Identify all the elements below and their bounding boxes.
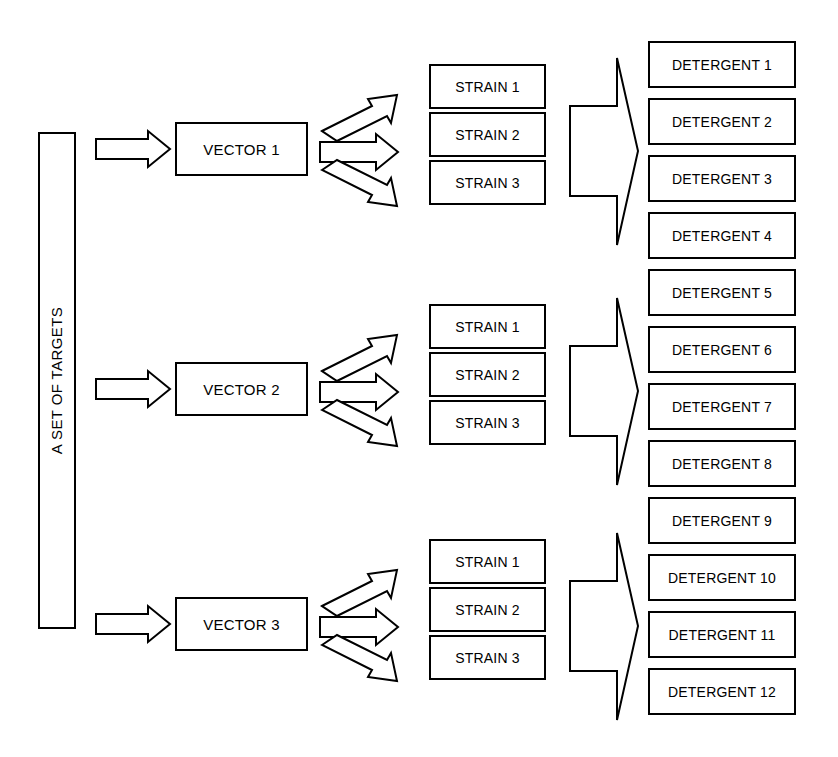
strain-box-g3-2: STRAIN 2 xyxy=(429,587,546,632)
detergent-label-5: DETERGENT 5 xyxy=(672,285,772,301)
strain-label-g2-1: STRAIN 1 xyxy=(455,319,520,335)
branch-arrow-g2-strain-1 xyxy=(322,335,397,381)
vector-box-1: VECTOR 1 xyxy=(175,122,308,176)
detergent-box-9: DETERGENT 9 xyxy=(648,497,796,544)
branch-arrow-g3-strain-3 xyxy=(322,635,397,681)
aggregate-arrow-group-2 xyxy=(570,298,638,485)
detergent-box-7: DETERGENT 7 xyxy=(648,383,796,430)
strain-box-g3-1: STRAIN 1 xyxy=(429,539,546,584)
strain-box-g2-3: STRAIN 3 xyxy=(429,400,546,445)
strain-label-g1-3: STRAIN 3 xyxy=(455,175,520,191)
detergent-box-2: DETERGENT 2 xyxy=(648,98,796,145)
vector-box-2: VECTOR 2 xyxy=(175,362,308,416)
branch-arrow-g1-strain-3 xyxy=(322,160,397,206)
feed-arrow-vector-3 xyxy=(96,606,170,642)
detergent-box-6: DETERGENT 6 xyxy=(648,326,796,373)
strain-label-g3-3: STRAIN 3 xyxy=(455,650,520,666)
feed-arrow-vector-2 xyxy=(96,371,170,407)
vector-label-2: VECTOR 2 xyxy=(203,381,279,398)
strain-box-g1-2: STRAIN 2 xyxy=(429,112,546,157)
targets-bar-label: A SET OF TARGETS xyxy=(49,307,66,454)
strain-label-g1-2: STRAIN 2 xyxy=(455,127,520,143)
strain-label-g3-2: STRAIN 2 xyxy=(455,602,520,618)
detergent-box-1: DETERGENT 1 xyxy=(648,41,796,88)
detergent-label-2: DETERGENT 2 xyxy=(672,114,772,130)
detergent-label-6: DETERGENT 6 xyxy=(672,342,772,358)
strain-box-g2-1: STRAIN 1 xyxy=(429,304,546,349)
strain-box-g3-3: STRAIN 3 xyxy=(429,635,546,680)
strain-label-g3-1: STRAIN 1 xyxy=(455,554,520,570)
process-flow-diagram: A SET OF TARGETS VECTOR 1 VECTOR 2 VECTO… xyxy=(0,0,838,757)
strain-label-g2-2: STRAIN 2 xyxy=(455,367,520,383)
detergent-label-1: DETERGENT 1 xyxy=(672,57,772,73)
detergent-label-8: DETERGENT 8 xyxy=(672,456,772,472)
vector-box-3: VECTOR 3 xyxy=(175,597,308,651)
strain-box-g1-3: STRAIN 3 xyxy=(429,160,546,205)
detergent-box-5: DETERGENT 5 xyxy=(648,269,796,316)
detergent-box-10: DETERGENT 10 xyxy=(648,554,796,601)
detergent-label-9: DETERGENT 9 xyxy=(672,513,772,529)
branch-arrow-g3-strain-1 xyxy=(322,570,397,616)
strain-box-g1-1: STRAIN 1 xyxy=(429,64,546,109)
feed-arrow-vector-1 xyxy=(96,131,170,167)
aggregate-arrow-group-1 xyxy=(570,58,638,245)
strain-label-g1-1: STRAIN 1 xyxy=(455,79,520,95)
detergent-label-3: DETERGENT 3 xyxy=(672,171,772,187)
detergent-box-8: DETERGENT 8 xyxy=(648,440,796,487)
strain-box-g2-2: STRAIN 2 xyxy=(429,352,546,397)
vector-label-1: VECTOR 1 xyxy=(203,141,279,158)
detergent-box-4: DETERGENT 4 xyxy=(648,212,796,259)
detergent-label-11: DETERGENT 11 xyxy=(669,627,776,643)
detergent-label-10: DETERGENT 10 xyxy=(668,570,776,586)
detergent-box-3: DETERGENT 3 xyxy=(648,155,796,202)
detergent-box-11: DETERGENT 11 xyxy=(648,611,796,658)
aggregate-arrow-group-3 xyxy=(570,533,638,720)
vector-label-3: VECTOR 3 xyxy=(203,616,279,633)
detergent-label-4: DETERGENT 4 xyxy=(672,228,772,244)
strain-label-g2-3: STRAIN 3 xyxy=(455,415,520,431)
branch-arrow-g1-strain-1 xyxy=(322,95,397,141)
detergent-box-12: DETERGENT 12 xyxy=(648,668,796,715)
detergent-label-7: DETERGENT 7 xyxy=(672,399,772,415)
detergent-label-12: DETERGENT 12 xyxy=(668,684,776,700)
targets-bar: A SET OF TARGETS xyxy=(38,132,76,629)
branch-arrow-g2-strain-3 xyxy=(322,400,397,446)
